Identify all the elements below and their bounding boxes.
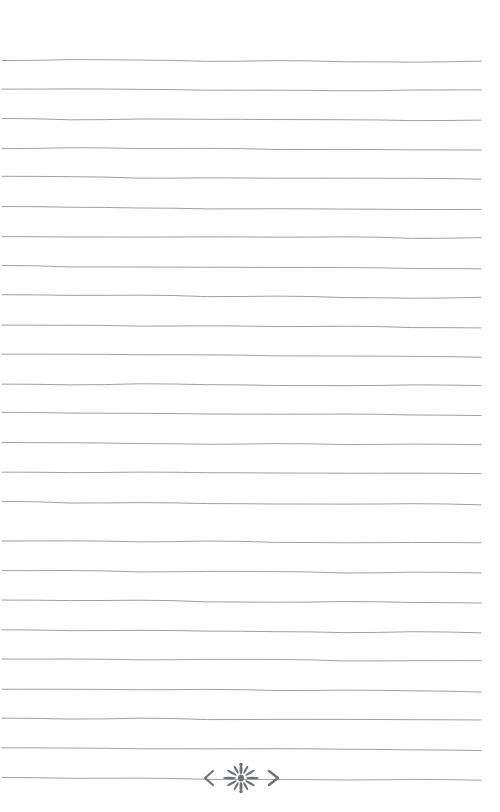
ruled-line [2,748,481,751]
ruled-line [2,237,481,239]
ruled-line [2,354,481,357]
ruled-line [2,118,481,120]
ruled-lines-group [0,0,500,812]
ruled-line [2,265,481,268]
ruled-line [2,472,481,474]
ruled-line [2,718,481,720]
ruled-lines-paths [2,60,481,781]
ruled-line [2,60,481,63]
ruled-line [2,600,481,603]
ruled-line [2,295,481,299]
ruled-line [2,412,481,415]
ruled-line [2,501,481,504]
ruled-line [2,571,481,573]
ruled-line [2,689,481,692]
ruled-line [2,778,481,781]
ruled-line [2,148,481,150]
ruled-line [2,659,481,661]
journal-page: Lined Journal Page [0,0,500,812]
ruled-line [2,89,481,91]
ruled-line [2,176,481,179]
ruled-line [2,207,481,210]
ruled-line [2,630,481,633]
ruled-line [2,541,481,543]
ruled-line [2,443,481,445]
ruled-line [2,384,481,386]
ruled-line [2,325,481,328]
